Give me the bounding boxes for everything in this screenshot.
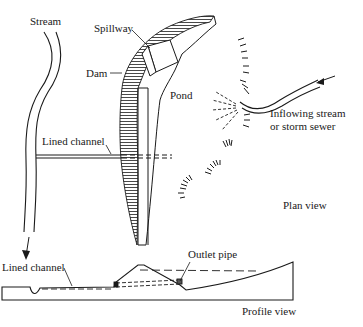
- water-surface: [140, 270, 256, 271]
- plan-view: Stream Spillway Dam Pond Inflowing strea…: [22, 15, 346, 260]
- outlet-pipe-leader: [180, 262, 190, 281]
- lined-channel-profile-label: Lined channel: [2, 261, 65, 273]
- plan-view-label: Plan view: [283, 199, 327, 211]
- outlet-pipe: [114, 279, 182, 287]
- stream: [24, 32, 61, 232]
- profile-view-label: Profile view: [242, 305, 296, 317]
- inlet-spread-lines: [212, 92, 238, 130]
- outlet-pipe-label: Outlet pipe: [188, 248, 237, 260]
- spillway-label: Spillway: [94, 22, 134, 34]
- dam-label: Dam: [86, 67, 108, 79]
- spillway-leader: [132, 30, 150, 48]
- profile-view: Lined channel Outlet pipe Profile view: [2, 248, 296, 317]
- lined-channel-plan-label: Lined channel: [42, 135, 105, 147]
- pond-diagram: Stream Spillway Dam Pond Inflowing strea…: [0, 0, 363, 327]
- profile-channel-leader: [64, 268, 72, 286]
- lined-channel-leader: [106, 145, 111, 154]
- stream-label: Stream: [30, 15, 62, 27]
- pond-label: Pond: [170, 89, 193, 101]
- inflow-label-line2: or storm sewer: [270, 120, 336, 132]
- lined-channel-plan: [36, 155, 172, 158]
- stream-arrow-icon: [22, 237, 30, 260]
- pond-contour-ticks: [178, 38, 250, 198]
- inflow-label-line1: Inflowing stream: [270, 107, 346, 119]
- inflow-arrow-icon: [316, 76, 335, 85]
